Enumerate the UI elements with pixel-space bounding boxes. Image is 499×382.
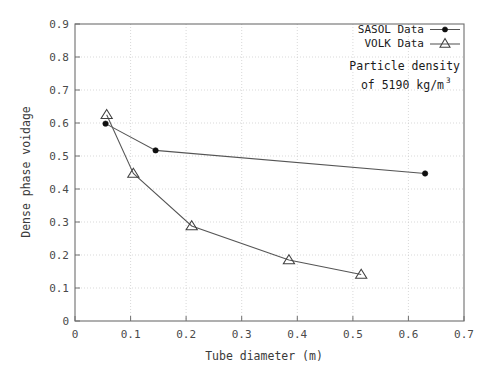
legend-label-sasol: SASOL Data — [358, 23, 424, 36]
x-tickmarks — [75, 316, 464, 321]
y-tickmarks — [75, 24, 80, 321]
legend-label-volk: VOLK Data — [364, 37, 424, 50]
series-markers-volk — [101, 110, 367, 279]
chart-figure: 0 0.1 0.2 0.3 0.4 0.5 0.6 0.7 0.8 0.9 0 … — [0, 0, 499, 382]
annotation-line-1: Particle density — [349, 59, 460, 73]
legend-marker-open-triangle-icon — [440, 39, 450, 48]
annotation-superscript: 3 — [446, 76, 451, 85]
chart-canvas: 0 0.1 0.2 0.3 0.4 0.5 0.6 0.7 0.8 0.9 0 … — [0, 0, 499, 382]
y-tick-label: 0.1 — [49, 282, 69, 295]
y-tick-label: 0.4 — [49, 183, 69, 196]
x-tick-label: 0 — [72, 328, 79, 341]
x-tick-labels: 0 0.1 0.2 0.3 0.4 0.5 0.6 0.7 — [72, 328, 474, 341]
chart-annotation: Particle density of 5190 kg/m 3 — [349, 59, 460, 92]
data-point-marker-circle — [103, 121, 108, 126]
y-tick-labels: 0 0.1 0.2 0.3 0.4 0.5 0.6 0.7 0.8 0.9 — [49, 18, 69, 328]
y-tick-label: 0.9 — [49, 18, 69, 31]
y-tick-label: 0.8 — [49, 51, 69, 64]
x-tick-label: 0.3 — [232, 328, 252, 341]
series-line-volk — [107, 115, 362, 275]
x-tick-label: 0.4 — [287, 328, 307, 341]
y-tick-label: 0.6 — [49, 117, 69, 130]
y-tick-label: 0.3 — [49, 216, 69, 229]
y-tick-label: 0.5 — [49, 150, 69, 163]
x-axis-title: Tube diameter (m) — [205, 349, 323, 363]
x-tick-label: 0.5 — [343, 328, 363, 341]
data-point-marker-circle — [153, 148, 158, 153]
x-tick-label: 0.7 — [454, 328, 474, 341]
x-tick-label: 0.2 — [176, 328, 196, 341]
y-axis-title: Dense phase voidage — [19, 106, 33, 238]
annotation-line-2: of 5190 kg/m — [361, 78, 444, 92]
y-tick-label: 0.2 — [49, 249, 69, 262]
legend-marker-filled-circle-icon — [442, 27, 447, 32]
chart-legend: SASOL Data VOLK Data — [358, 23, 460, 50]
data-point-marker-triangle — [101, 110, 112, 119]
y-tick-label: 0.7 — [49, 84, 69, 97]
x-tick-label: 0.6 — [398, 328, 418, 341]
x-tick-label: 0.1 — [121, 328, 141, 341]
data-point-marker-triangle — [283, 255, 294, 264]
y-tick-label: 0 — [62, 315, 69, 328]
data-point-marker-circle — [422, 171, 427, 176]
